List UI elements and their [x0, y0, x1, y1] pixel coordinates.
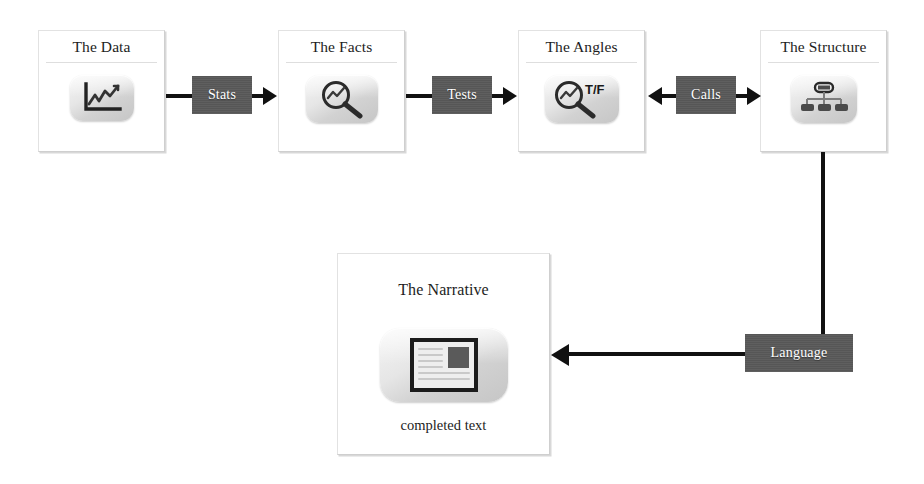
- svg-text:T/F: T/F: [585, 82, 605, 97]
- card-the-structure-title: The Structure: [761, 37, 886, 57]
- arrow-language-to-narrative: [551, 344, 569, 366]
- connector-box-tests[interactable]: Tests: [432, 76, 492, 114]
- card-the-facts-icon-area: [279, 75, 404, 123]
- connector-box-language[interactable]: Language: [745, 334, 853, 372]
- card-the-structure-icon-area: [761, 75, 886, 123]
- connector-box-calls[interactable]: Calls: [676, 76, 736, 114]
- card-divider: [526, 62, 637, 63]
- connector-line-language-left: [566, 352, 746, 356]
- card-divider: [768, 62, 879, 63]
- connector-line-structure-to-language: [821, 152, 825, 336]
- org-chart-icon: [791, 75, 857, 123]
- connector-line-stats-left: [166, 94, 194, 98]
- connector-box-stats-label: Stats: [208, 87, 236, 103]
- line-chart-icon: [70, 75, 134, 121]
- connector-box-tests-label: Tests: [447, 87, 477, 103]
- card-the-narrative[interactable]: The Narrative completed text: [337, 253, 550, 455]
- connector-box-language-label: Language: [771, 345, 828, 361]
- arrow-calls-to-angles: [648, 87, 662, 105]
- connector-line-calls-left: [661, 94, 677, 98]
- arrow-tests-to-angles: [503, 87, 517, 105]
- card-the-narrative-title: The Narrative: [338, 280, 549, 300]
- card-the-data[interactable]: The Data: [38, 30, 165, 152]
- arrow-stats-to-facts: [263, 87, 277, 105]
- magnifier-chart-icon: [306, 75, 378, 123]
- card-the-data-title: The Data: [39, 37, 164, 57]
- connector-box-calls-label: Calls: [691, 87, 721, 103]
- card-the-angles-icon-area: T/F: [519, 75, 644, 123]
- card-the-facts[interactable]: The Facts: [278, 30, 405, 152]
- card-the-angles[interactable]: The Angles T/F: [518, 30, 645, 152]
- arrow-calls-to-structure: [747, 87, 761, 105]
- connector-line-tests-left: [406, 94, 434, 98]
- magnifier-true-false-icon: T/F: [545, 75, 619, 123]
- diagram-canvas: The Data Stats The Facts: [0, 0, 924, 484]
- card-the-angles-title: The Angles: [519, 37, 644, 57]
- card-the-structure[interactable]: The Structure: [760, 30, 887, 152]
- card-divider: [286, 62, 397, 63]
- card-the-data-icon-area: [39, 75, 164, 121]
- connector-box-stats[interactable]: Stats: [192, 76, 252, 114]
- card-the-narrative-caption: completed text: [338, 417, 549, 434]
- document-page-icon: [380, 328, 508, 402]
- card-divider: [46, 62, 157, 63]
- card-the-facts-title: The Facts: [279, 37, 404, 57]
- card-the-narrative-icon-area: [338, 328, 549, 402]
